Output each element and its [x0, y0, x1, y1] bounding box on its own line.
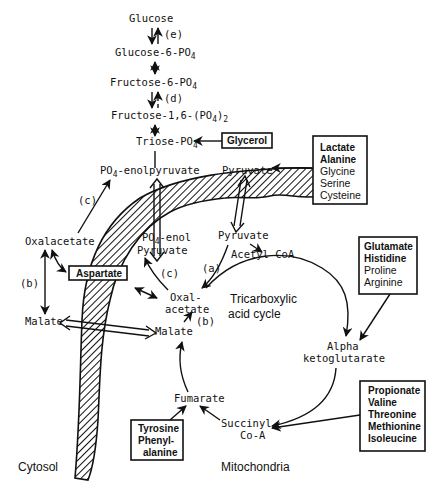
mito-pyruvate: Pyruvate: [218, 229, 269, 241]
glucose-6-phosphate: Glucose-6-PO4: [115, 46, 196, 61]
akg-1: Alpha: [327, 340, 359, 352]
isoleucine: Isoleucine: [368, 433, 417, 444]
enzyme-label-c-mito: (c): [160, 267, 179, 279]
cytosol-pep: PO4-enolpyruvate: [100, 164, 200, 179]
arginine: Arginine: [364, 276, 403, 288]
gluconeogenesis-diagram: Glucose (e) Glucose-6-PO4 Fructose-6-PO4…: [0, 0, 441, 489]
cytosol-oxalacetate: Oxalacetate: [25, 235, 95, 247]
enzyme-label-d: (d): [164, 92, 183, 104]
mito-oxalacetate-1: Oxal-: [170, 291, 202, 303]
alanine: Alanine: [320, 154, 357, 165]
histidine: Histidine: [364, 253, 407, 264]
proline: Proline: [364, 264, 397, 276]
enzyme-label-b-mito: (b): [196, 315, 215, 327]
fructose-6-phosphate: Fructose-6-PO4: [110, 76, 197, 91]
alanine-2: alanine: [143, 447, 178, 458]
fructose-1-6-bisphosphate: Fructose-1,6-(PO4)2: [111, 109, 228, 124]
phenyl: Phenyl-: [138, 435, 174, 446]
cytosol-pyruvate: Pyruvate: [222, 164, 273, 176]
succinyl-coa-1: Succinyl: [221, 417, 272, 429]
valine: Valine: [368, 397, 397, 408]
cysteine: Cysteine: [320, 189, 361, 201]
enzyme-label-a: (a): [202, 262, 221, 274]
propionate: Propionate: [368, 385, 421, 396]
mito-oxalacetate-2: acetate: [165, 303, 209, 315]
mito-pep-2: Pyruvate: [137, 244, 188, 256]
enzyme-label-e: (e): [164, 28, 183, 40]
threonine: Threonine: [368, 409, 417, 420]
tca-label-1: Tricarboxylic: [230, 292, 297, 306]
methionine: Methionine: [368, 421, 421, 432]
mito-malate: Malate: [155, 325, 193, 337]
acetyl-coa: Acetyl-CoA: [231, 248, 295, 260]
tca-label-2: acid cycle: [228, 307, 281, 321]
triose-phosphate: Triose-PO4: [136, 135, 198, 150]
glycerol: Glycerol: [227, 135, 267, 146]
cytosol-label: Cytosol: [18, 460, 58, 474]
fumarate: Fumarate: [174, 392, 225, 404]
succinyl-coa-2: Co-A: [240, 429, 266, 441]
aspartate: Aspartate: [76, 268, 123, 279]
glutamate: Glutamate: [364, 241, 413, 252]
mitochondrial-membrane: [75, 168, 366, 480]
glycine: Glycine: [320, 165, 355, 177]
glucose: Glucose: [129, 12, 173, 24]
akg-2: ketoglutarate: [303, 352, 385, 364]
lactate: Lactate: [320, 142, 355, 153]
mitochondria-label: Mitochondria: [221, 460, 290, 474]
enzyme-label-b-cytosol: (b): [20, 277, 39, 289]
enzyme-label-c-cytosol: (c): [78, 194, 97, 206]
tyrosine: Tyrosine: [138, 423, 179, 434]
serine: Serine: [320, 177, 351, 189]
cytosol-malate: Malate: [25, 315, 63, 327]
